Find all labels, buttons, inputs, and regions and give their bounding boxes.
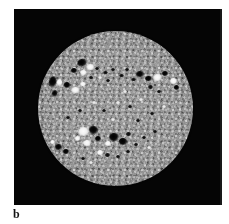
active-region-sw-limb-negative-b bbox=[63, 149, 69, 154]
active-region-ne-limb-positive bbox=[170, 78, 177, 84]
figure-panel-b: b bbox=[0, 0, 229, 224]
active-region-s-leading-plage bbox=[83, 140, 91, 146]
magnetogram-image-panel bbox=[14, 9, 222, 205]
network-element-s3 bbox=[147, 146, 151, 149]
active-region-s-trailing-negative-b bbox=[119, 138, 127, 145]
network-element-q7 bbox=[111, 118, 115, 121]
network-element-q5 bbox=[92, 101, 96, 104]
network-element-q1 bbox=[116, 101, 120, 104]
network-element-n1 bbox=[95, 67, 99, 70]
network-element-q8 bbox=[78, 109, 82, 112]
active-region-ne-right-negative-b bbox=[145, 76, 152, 81]
active-region-s-trailing-positive bbox=[105, 141, 111, 146]
panel-edge-highlight bbox=[220, 9, 222, 205]
network-element-n8 bbox=[131, 78, 136, 81]
network-element-q4 bbox=[102, 109, 106, 112]
network-element-q6 bbox=[150, 112, 154, 115]
solar-disk bbox=[38, 31, 193, 186]
network-element-s1 bbox=[134, 143, 138, 146]
active-region-nw-spot-a bbox=[71, 68, 77, 73]
active-region-nw-plage-a bbox=[80, 70, 87, 75]
solar-disk-container bbox=[38, 31, 193, 186]
network-element-s8 bbox=[153, 130, 157, 133]
active-region-n-left-limb-positive bbox=[57, 79, 62, 86]
network-element-q3 bbox=[139, 98, 143, 101]
network-element-s5 bbox=[116, 155, 120, 158]
panel-label: b bbox=[13, 207, 20, 221]
network-element-s7 bbox=[81, 157, 85, 160]
granulation-noise-texture bbox=[38, 31, 193, 186]
active-region-sw-limb-positive bbox=[50, 140, 55, 144]
